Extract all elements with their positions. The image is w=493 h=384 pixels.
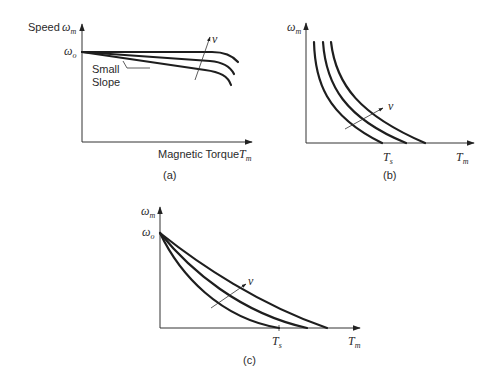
v-label: v (388, 99, 394, 113)
y-axis-symbol: ωm (287, 20, 301, 36)
v-arrow (195, 37, 210, 80)
annotation-small: Small (92, 63, 120, 75)
annotation-slope: Slope (92, 76, 120, 88)
y-axis-label: Speed (28, 21, 60, 33)
omega-o-label: ωo (142, 225, 154, 241)
ts-label: Ts (383, 150, 393, 166)
x-axis-symbol: Tm (348, 334, 361, 350)
curve-v-mid (160, 233, 307, 328)
caption-a: (a) (163, 169, 176, 181)
v-label: v (248, 274, 254, 288)
x-axis-symbol: Tm (456, 150, 469, 166)
x-axis-label: Magnetic Torque (158, 148, 239, 160)
x-axis-symbol: Tm (239, 147, 252, 163)
y-axis-symbol: ωm (62, 20, 76, 36)
panel-c: ωm ωo v Ts Tm (c) (141, 204, 361, 366)
curve-v-high (160, 233, 327, 328)
caption-b: (b) (383, 169, 396, 181)
speed-torque-diagrams: Speed ωm ωo Small Slope v Magnetic Torqu… (0, 0, 493, 384)
panel-a: Speed ωm ωo Small Slope v Magnetic Torqu… (28, 20, 252, 181)
y-axis-symbol: ωm (141, 204, 155, 220)
ts-label: Ts (272, 334, 282, 350)
v-label: v (212, 32, 218, 46)
v-arrow (345, 108, 383, 129)
panel-b: ωm v Ts Tm (b) (287, 20, 474, 181)
curve-v-high (331, 42, 425, 143)
omega-o-label: ωo (64, 44, 76, 60)
caption-c: (c) (243, 354, 256, 366)
